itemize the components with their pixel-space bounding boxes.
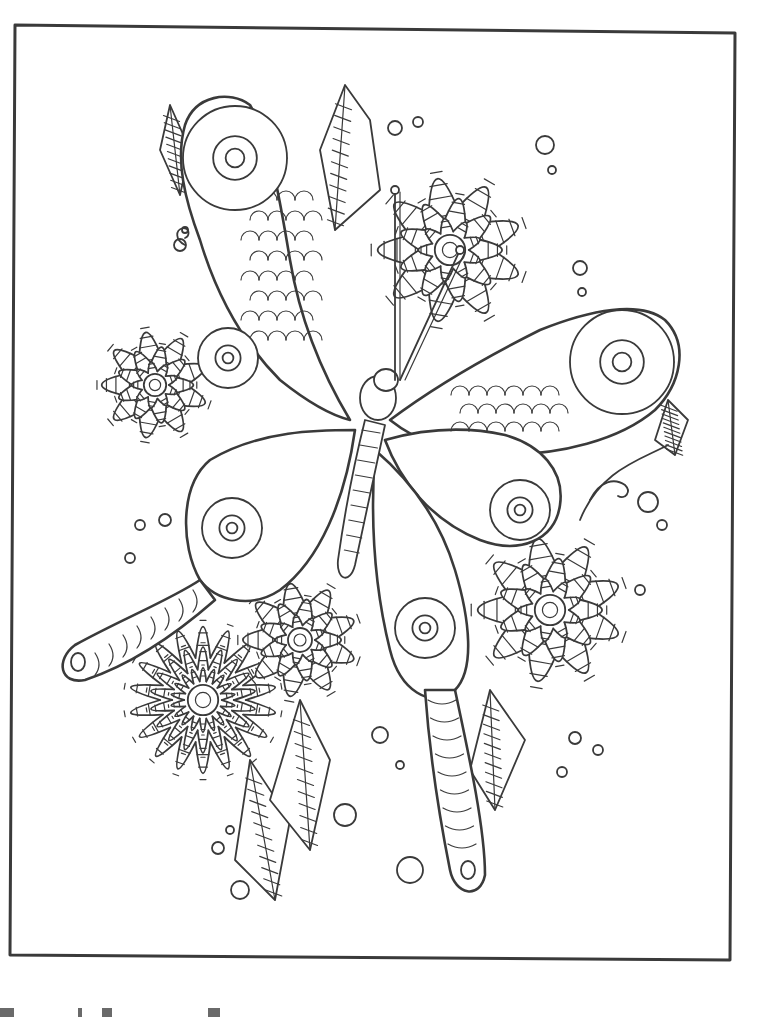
wing-scallop — [295, 191, 313, 200]
bubble — [372, 727, 388, 743]
petal-hatch — [149, 360, 153, 361]
petal — [465, 215, 490, 239]
petal-hatch — [131, 420, 136, 423]
petal-hatch — [456, 193, 464, 194]
petal — [565, 621, 590, 645]
petal-hatch — [257, 652, 259, 658]
petal-hatch — [327, 692, 335, 697]
petal-hatch — [259, 708, 260, 712]
right-rose — [471, 531, 626, 688]
petal-hatch — [522, 271, 526, 282]
petal-hatch — [174, 693, 175, 697]
petal-hatch — [584, 539, 594, 545]
petal-hatch — [332, 609, 336, 614]
bubble — [334, 804, 356, 826]
petal-hatch — [141, 441, 149, 442]
petal-hatch — [159, 343, 165, 344]
wing-scallop — [304, 211, 322, 220]
petal-hatch — [386, 195, 394, 204]
petal-hatch — [556, 665, 564, 666]
eyespot-ring — [600, 340, 644, 384]
petal-hatch — [332, 666, 336, 671]
petal-hatch — [486, 555, 494, 564]
petal-hatch — [304, 684, 311, 685]
scan-artifact — [102, 1008, 112, 1017]
petal-hatch — [180, 433, 187, 437]
bubble — [388, 121, 402, 135]
petal-hatch — [584, 675, 594, 681]
petal-hatch — [133, 737, 136, 742]
petal-hatch — [486, 656, 494, 665]
petal-hatch — [146, 688, 147, 692]
petal-hatch — [281, 683, 282, 689]
petal-hatch — [484, 315, 494, 321]
petal-hatch — [149, 410, 153, 411]
scan-artifact — [0, 1008, 14, 1017]
bubble — [212, 842, 224, 854]
petal-hatch — [305, 595, 312, 596]
petal-hatch — [591, 643, 596, 649]
petal-hatch — [259, 688, 260, 692]
wing-scallop — [304, 291, 322, 300]
petal-hatch — [285, 700, 294, 702]
petal-hatch — [357, 614, 360, 623]
bubble — [593, 745, 603, 755]
bubble — [231, 881, 249, 899]
petal-hatch — [293, 667, 297, 668]
bubble — [573, 261, 587, 275]
eyespot-ring — [219, 515, 244, 540]
petal-hatch — [257, 622, 259, 628]
petal-hatch — [357, 657, 360, 666]
petal-hatch — [293, 613, 297, 614]
petal — [565, 575, 590, 599]
petal-hatch — [185, 356, 189, 361]
scan-artifact — [78, 1008, 82, 1017]
wing-scallop — [304, 251, 322, 260]
petal-hatch — [214, 732, 216, 733]
petal — [465, 261, 490, 285]
petal-hatch — [622, 578, 626, 589]
bubble — [569, 732, 581, 744]
eyespot-ring — [213, 136, 257, 180]
petal-hatch — [491, 283, 496, 289]
flower-center — [188, 685, 218, 715]
petal-hatch — [190, 732, 192, 733]
petal-hatch — [124, 683, 125, 689]
bubble — [635, 585, 645, 595]
flower-center — [535, 595, 565, 625]
petal-hatch — [252, 759, 257, 763]
bubble — [557, 767, 567, 777]
petal-hatch — [431, 327, 443, 329]
petal-hatch — [146, 708, 147, 712]
bubble — [548, 166, 556, 174]
petal-hatch — [232, 693, 233, 697]
butterfly — [63, 97, 680, 892]
right-leaf — [470, 690, 525, 810]
bubble — [226, 826, 234, 834]
bubble — [135, 520, 145, 530]
petal-hatch — [275, 600, 281, 603]
bubble — [578, 288, 586, 296]
petal-hatch — [150, 759, 155, 763]
bubble — [638, 492, 658, 512]
petal-hatch — [115, 396, 117, 402]
bubble — [396, 761, 404, 769]
petal-hatch — [281, 711, 282, 717]
petal-hatch — [591, 570, 596, 576]
petal-hatch — [141, 327, 149, 328]
petal-hatch — [159, 426, 165, 427]
petal-hatch — [522, 218, 526, 229]
petal-hatch — [131, 347, 136, 350]
flower-center — [288, 628, 312, 652]
wing-scallop — [295, 271, 313, 280]
eyespot-ring — [412, 615, 437, 640]
petal — [200, 668, 207, 682]
antenna-tip — [391, 186, 399, 194]
petal-hatch — [108, 344, 114, 351]
petal-hatch — [173, 774, 179, 776]
petal — [200, 719, 207, 733]
petal-hatch — [418, 297, 425, 301]
petal-hatch — [275, 677, 281, 680]
petal-hatch — [185, 410, 189, 415]
bubble — [159, 514, 171, 526]
